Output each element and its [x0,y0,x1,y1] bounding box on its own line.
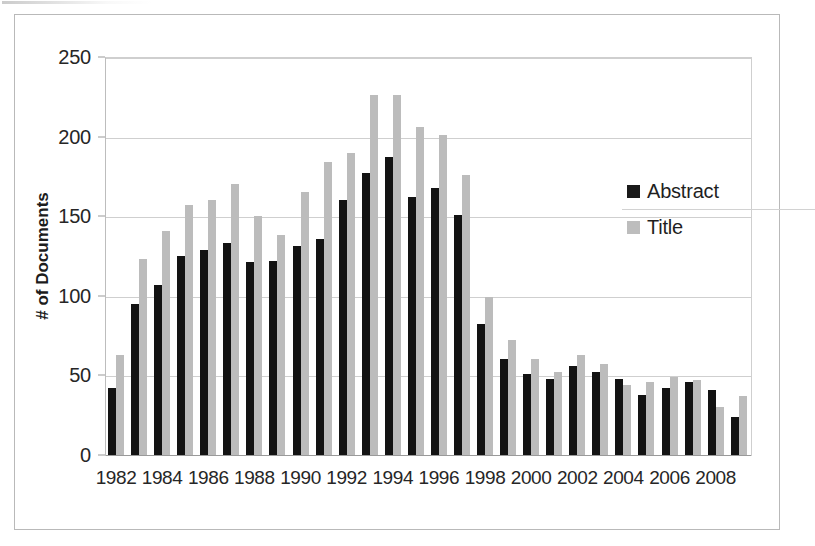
bar-abstract-2008[interactable] [708,390,716,455]
bar-title-2004[interactable] [623,385,631,455]
y-tick-label-0: 0 [80,444,91,467]
bar-abstract-1987[interactable] [223,243,231,455]
bar-group-1997 [454,57,470,455]
bar-group-1996 [431,57,447,455]
bar-abstract-1993[interactable] [362,173,370,455]
bar-abstract-2001[interactable] [546,379,554,455]
bar-title-2007[interactable] [693,380,701,455]
bar-abstract-1998[interactable] [477,324,485,455]
bar-title-2001[interactable] [554,372,562,455]
bar-group-2006 [662,57,678,455]
bar-abstract-1995[interactable] [408,197,416,455]
bar-title-1997[interactable] [462,175,470,455]
bar-abstract-2007[interactable] [685,382,693,455]
bar-abstract-1990[interactable] [293,246,301,455]
bar-title-1996[interactable] [439,135,447,455]
legend-item-abstract[interactable]: Abstract [627,173,777,209]
x-tick-label-2002: 2002 [557,467,598,489]
bar-title-1993[interactable] [370,95,378,455]
bar-group-1982 [108,57,124,455]
x-tick-label-2004: 2004 [603,467,644,489]
legend-label-abstract: Abstract [647,180,719,203]
bar-title-1984[interactable] [162,231,170,455]
bar-title-1992[interactable] [347,153,355,455]
bar-group-1998 [477,57,493,455]
bar-abstract-2002[interactable] [569,366,577,455]
bar-title-1995[interactable] [416,127,424,455]
bar-title-2005[interactable] [646,382,654,455]
bar-group-1985 [177,57,193,455]
bar-title-1998[interactable] [485,297,493,455]
bar-group-1983 [131,57,147,455]
scan-artifact [2,1,152,4]
bar-title-2008[interactable] [716,407,724,455]
bar-title-2006[interactable] [670,377,678,455]
legend-divider [622,209,815,210]
x-tick-label-2000: 2000 [511,467,552,489]
y-tick-label-200: 200 [58,125,91,148]
bar-title-1983[interactable] [139,259,147,455]
y-tick-mark-250 [98,57,105,58]
bar-title-1989[interactable] [277,235,285,455]
bar-abstract-2005[interactable] [638,395,646,455]
bar-title-1987[interactable] [231,184,239,455]
x-tick-label-1998: 1998 [465,467,506,489]
y-tick-label-50: 50 [69,364,91,387]
bar-abstract-1992[interactable] [339,200,347,455]
bar-title-1994[interactable] [393,95,401,455]
bar-group-2004 [615,57,631,455]
legend-label-title: Title [647,216,683,239]
x-tick-label-1984: 1984 [142,467,183,489]
bar-title-2000[interactable] [531,359,539,455]
bar-abstract-2000[interactable] [523,374,531,455]
x-tick-label-1988: 1988 [234,467,275,489]
x-tick-label-2008: 2008 [695,467,736,489]
bar-abstract-2009[interactable] [731,417,739,455]
bar-abstract-1997[interactable] [454,215,462,455]
bar-title-1999[interactable] [508,340,516,455]
bar-abstract-1985[interactable] [177,256,185,455]
bar-group-1984 [154,57,170,455]
bar-abstract-2006[interactable] [662,388,670,455]
bar-abstract-1999[interactable] [500,359,508,455]
y-axis-ticks: 050100150200250 [15,57,105,455]
bar-abstract-1994[interactable] [385,157,393,455]
bar-title-1985[interactable] [185,205,193,455]
bar-group-1989 [269,57,285,455]
bar-title-1986[interactable] [208,200,216,455]
bar-abstract-1989[interactable] [269,261,277,455]
x-tick-label-1982: 1982 [96,467,137,489]
bar-group-1994 [385,57,401,455]
bar-abstract-1996[interactable] [431,188,439,455]
bar-group-1992 [339,57,355,455]
y-tick-label-250: 250 [58,46,91,69]
x-tick-label-1996: 1996 [419,467,460,489]
bar-abstract-1984[interactable] [154,285,162,455]
x-tick-label-2006: 2006 [649,467,690,489]
bar-group-1999 [500,57,516,455]
bar-abstract-1988[interactable] [246,262,254,455]
bar-title-1982[interactable] [116,355,124,455]
bar-title-1988[interactable] [254,216,262,455]
bar-abstract-1983[interactable] [131,304,139,455]
y-tick-label-150: 150 [58,205,91,228]
bar-group-2000 [523,57,539,455]
legend-item-title[interactable]: Title [627,209,777,245]
bars-layer [105,57,750,455]
bar-group-1995 [408,57,424,455]
bar-abstract-1982[interactable] [108,388,116,455]
bar-title-2003[interactable] [600,364,608,455]
bar-group-2002 [569,57,585,455]
bar-abstract-2004[interactable] [615,379,623,455]
y-tick-label-100: 100 [58,284,91,307]
bar-group-1990 [293,57,309,455]
bar-abstract-1986[interactable] [200,250,208,455]
bar-title-2002[interactable] [577,355,585,455]
bar-abstract-2003[interactable] [592,372,600,455]
bar-title-1991[interactable] [324,162,332,455]
bar-abstract-1991[interactable] [316,239,324,456]
bar-title-2009[interactable] [739,396,747,455]
bar-title-1990[interactable] [301,192,309,455]
x-tick-label-1990: 1990 [280,467,321,489]
legend-swatch-title-icon [627,221,640,234]
